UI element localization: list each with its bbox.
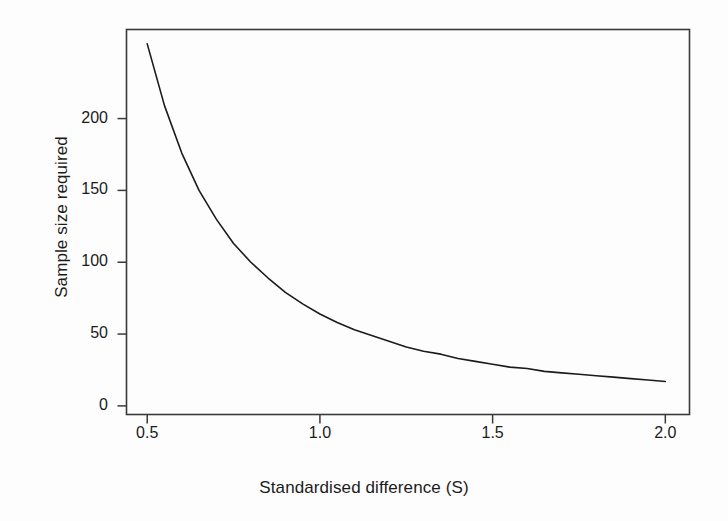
chart-figure: 0.51.01.52.0 050100150200 Standardised d…	[0, 0, 728, 521]
x-axis-tick-label: 2.0	[635, 424, 695, 442]
x-axis-tick-label: 1.0	[290, 424, 350, 442]
data-series-group	[147, 44, 665, 382]
plot-canvas	[0, 0, 728, 521]
plot-frame	[127, 30, 690, 415]
y-axis-title: Sample size required	[52, 67, 72, 367]
x-axis-title: Standardised difference (S)	[0, 478, 728, 498]
y-axis-title-container: Sample size required	[52, 67, 76, 367]
x-axis-tick-label: 0.5	[117, 424, 177, 442]
x-axis-tick-label: 1.5	[463, 424, 523, 442]
x-axis-tick-marks	[147, 415, 665, 424]
y-axis-tick-label: 0	[48, 396, 108, 414]
y-axis-tick-marks	[118, 119, 127, 406]
data-series-line	[147, 44, 665, 382]
